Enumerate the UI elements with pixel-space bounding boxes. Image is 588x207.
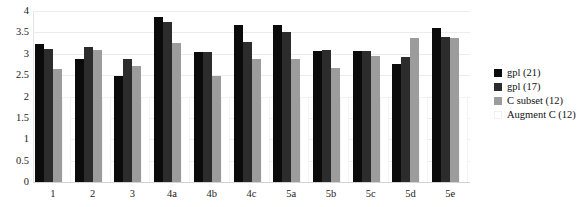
bar-group bbox=[192, 11, 232, 182]
y-axis-tick-label: 4 bbox=[24, 6, 29, 17]
bar-group bbox=[351, 11, 391, 182]
bar bbox=[172, 43, 181, 182]
bar bbox=[410, 38, 419, 182]
bar bbox=[181, 97, 190, 183]
bar-group bbox=[112, 11, 152, 182]
bar bbox=[353, 51, 362, 182]
bar bbox=[132, 66, 141, 182]
bar bbox=[114, 76, 123, 182]
bar bbox=[102, 97, 111, 183]
legend-item[interactable]: gpl (17) bbox=[494, 80, 586, 94]
chart-legend: gpl (21)gpl (17)C subset (12)Augment C (… bbox=[494, 66, 586, 122]
bar bbox=[84, 47, 93, 182]
medium-gray-swatch bbox=[494, 97, 502, 105]
x-axis: 1234a4b4c5a5b5c5d5e bbox=[33, 186, 470, 204]
y-axis-tick-label: 0.5 bbox=[16, 155, 29, 166]
legend-item-label: gpl (17) bbox=[507, 82, 541, 93]
bar-chart: 43.532.521.510.50 1234a4b4c5a5b5c5d5e gp… bbox=[0, 0, 588, 207]
axis-baseline bbox=[33, 182, 470, 183]
x-axis-tick-label: 5b bbox=[311, 186, 351, 204]
bar bbox=[419, 97, 428, 183]
bar bbox=[432, 28, 441, 182]
bar-group bbox=[391, 11, 431, 182]
bar bbox=[392, 64, 401, 182]
bar bbox=[401, 57, 410, 182]
x-axis-tick-label: 5c bbox=[351, 186, 391, 204]
x-axis-tick-label: 5e bbox=[430, 186, 470, 204]
legend-item-label: Augment C (12) bbox=[507, 110, 576, 121]
bar bbox=[62, 97, 71, 183]
bar bbox=[35, 44, 44, 183]
white-swatch bbox=[494, 111, 502, 119]
x-axis-tick-label: 3 bbox=[112, 186, 152, 204]
bar bbox=[441, 37, 450, 182]
x-axis-tick-label: 4a bbox=[152, 186, 192, 204]
bar bbox=[450, 38, 459, 182]
legend-item[interactable]: C subset (12) bbox=[494, 94, 586, 108]
legend-item-label: gpl (21) bbox=[507, 68, 541, 79]
bar bbox=[163, 22, 172, 182]
bar-group bbox=[271, 11, 311, 182]
bar bbox=[340, 97, 349, 183]
legend-item-label: C subset (12) bbox=[507, 96, 563, 107]
dark-gray-swatch bbox=[494, 83, 502, 91]
bar bbox=[234, 25, 243, 182]
bar bbox=[123, 59, 132, 182]
y-axis-tick-label: 2.5 bbox=[16, 70, 29, 81]
bar bbox=[362, 51, 371, 182]
y-axis-tick-label: 2 bbox=[24, 91, 29, 102]
bar bbox=[243, 42, 252, 182]
bar bbox=[141, 97, 150, 183]
y-axis-tick-label: 1.5 bbox=[16, 113, 29, 124]
bar bbox=[221, 97, 230, 183]
plot-area bbox=[33, 11, 470, 182]
bar bbox=[93, 50, 102, 182]
bar-group bbox=[311, 11, 351, 182]
bar bbox=[300, 97, 309, 183]
legend-item[interactable]: gpl (21) bbox=[494, 66, 586, 80]
y-axis-tick-label: 1 bbox=[24, 134, 29, 145]
bar-groups bbox=[33, 11, 470, 182]
black-swatch bbox=[494, 69, 502, 77]
bar bbox=[194, 52, 203, 182]
bar bbox=[282, 32, 291, 182]
y-axis-tick-label: 3.5 bbox=[16, 27, 29, 38]
x-axis-tick-label: 4b bbox=[192, 186, 232, 204]
bar-group bbox=[430, 11, 470, 182]
bar bbox=[371, 56, 380, 182]
bar bbox=[212, 76, 221, 182]
bar bbox=[44, 49, 53, 182]
bar bbox=[273, 25, 282, 182]
x-axis-tick-label: 1 bbox=[33, 186, 73, 204]
bar bbox=[459, 97, 468, 183]
bar bbox=[252, 59, 261, 182]
y-axis-tick-label: 0 bbox=[24, 177, 29, 188]
x-axis-tick-label: 4c bbox=[232, 186, 272, 204]
bar bbox=[313, 51, 322, 182]
x-axis-tick-label: 5d bbox=[391, 186, 431, 204]
bar bbox=[53, 69, 62, 182]
bar bbox=[75, 59, 84, 182]
bar bbox=[331, 68, 340, 182]
bar-group bbox=[73, 11, 113, 182]
bar-group bbox=[152, 11, 192, 182]
y-axis: 43.532.521.510.50 bbox=[0, 0, 29, 207]
bar bbox=[261, 97, 270, 183]
bar bbox=[154, 17, 163, 182]
bar bbox=[380, 97, 389, 183]
x-axis-tick-label: 2 bbox=[73, 186, 113, 204]
bar bbox=[291, 59, 300, 182]
bar-group bbox=[33, 11, 73, 182]
y-axis-tick-label: 3 bbox=[24, 49, 29, 60]
bar bbox=[203, 52, 212, 182]
legend-item[interactable]: Augment C (12) bbox=[494, 108, 586, 122]
bar bbox=[322, 50, 331, 182]
bar-group bbox=[232, 11, 272, 182]
x-axis-tick-label: 5a bbox=[271, 186, 311, 204]
